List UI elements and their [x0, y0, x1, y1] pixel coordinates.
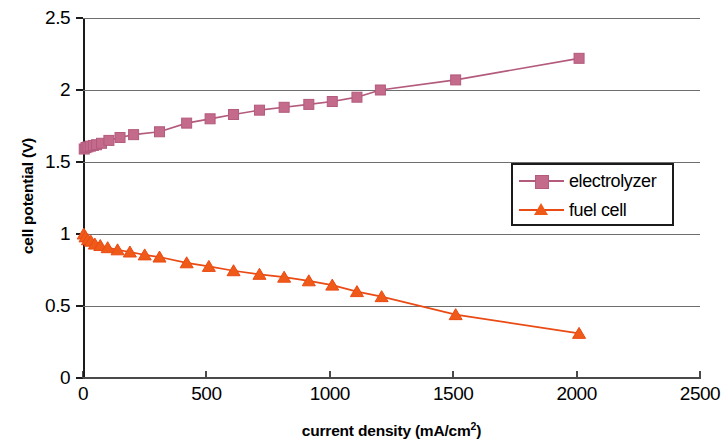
legend-label-fuel-cell: fuel cell — [564, 201, 626, 219]
y-tick-mark — [76, 305, 83, 307]
data-point-square — [279, 102, 289, 112]
y-tick-mark — [76, 89, 83, 91]
legend-item-fuel-cell[interactable]: fuel cell — [519, 196, 626, 224]
y-tick-label: 1 — [0, 224, 70, 243]
y-axis-title: cell potential (V) — [19, 81, 37, 311]
legend: electrolyzer fuel cell — [511, 163, 674, 226]
data-point-square — [304, 99, 314, 109]
square-marker-icon — [535, 175, 549, 189]
x-tick-label: 2000 — [532, 384, 622, 403]
data-point-square — [451, 75, 461, 85]
data-point-square — [182, 118, 192, 128]
data-point-square — [574, 53, 584, 63]
y-tick-mark — [76, 161, 83, 163]
x-tick-label: 1500 — [408, 384, 498, 403]
series-fuel-cell — [77, 228, 585, 338]
x-axis-title-tail: ) — [476, 422, 481, 439]
x-tick-label: 2500 — [655, 384, 723, 403]
legend-label-electrolyzer: electrolyzer — [564, 172, 656, 190]
data-point-square — [327, 97, 337, 107]
cell-potential-chart: cell potential (V) current density (mA/c… — [0, 0, 723, 445]
x-tick-label: 1000 — [285, 384, 375, 403]
data-point-square — [155, 127, 165, 137]
legend-swatch-electrolyzer — [519, 171, 564, 191]
y-tick-label: 2.5 — [0, 8, 70, 27]
legend-swatch-fuel-cell — [519, 200, 564, 220]
data-point-square — [129, 130, 139, 140]
x-axis-title: current density (mA/cm2) — [83, 422, 700, 440]
y-tick-label: 2 — [0, 80, 70, 99]
data-point-square — [352, 92, 362, 102]
series-electrolyzer — [79, 53, 584, 154]
data-point-square — [254, 105, 264, 115]
data-point-square — [115, 133, 125, 143]
y-tick-mark — [76, 17, 83, 19]
x-tick-label: 500 — [161, 384, 251, 403]
legend-item-electrolyzer[interactable]: electrolyzer — [519, 167, 656, 195]
data-point-square — [229, 109, 239, 119]
data-point-square — [205, 114, 215, 124]
x-axis-title-base: current density (mA/cm — [302, 422, 471, 439]
data-point-square — [104, 135, 114, 145]
data-point-square — [375, 85, 385, 95]
triangle-marker-icon — [534, 203, 548, 215]
y-tick-label: 0.5 — [0, 296, 70, 315]
x-tick-label: 0 — [38, 384, 128, 403]
y-tick-label: 1.5 — [0, 152, 70, 171]
